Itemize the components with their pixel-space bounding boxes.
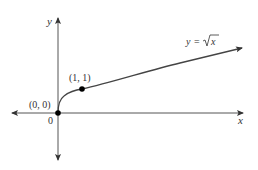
curve-equation-label: y = x (185, 35, 219, 47)
sqrt-function-graph: y x 0 (0, 0) (1, 1) y = x (0, 0, 258, 170)
y-axis-label: y (46, 15, 52, 27)
x-axis-label: x (237, 114, 243, 126)
point-origin-label: (0, 0) (29, 99, 51, 111)
point-one-one-label: (1, 1) (69, 72, 91, 84)
origin-label: 0 (48, 115, 53, 126)
point-one-one (79, 86, 85, 92)
svg-text:=: = (194, 36, 200, 47)
point-origin (55, 110, 61, 116)
svg-text:y: y (185, 36, 191, 47)
svg-text:x: x (210, 36, 216, 47)
